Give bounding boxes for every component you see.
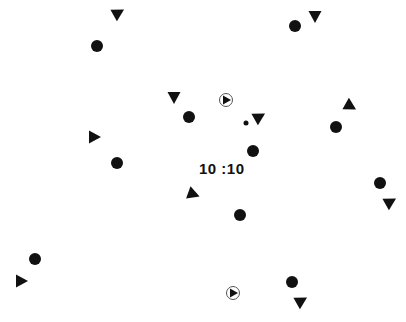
triangle-icon [89,131,101,144]
triangle-icon [251,108,268,125]
dot-icon [374,177,386,189]
triangle-icon [16,275,28,288]
dot-icon [289,20,301,32]
triangle-icon [293,292,310,309]
dot-icon [234,209,246,221]
dot-icon [244,121,249,126]
dot-icon [29,253,41,265]
triangle-icon [110,4,127,21]
stimulus-canvas: 10 :10 [0,0,406,322]
dot-icon [91,40,103,52]
triangle-icon [342,98,359,115]
triangle-icon [186,186,202,202]
circled-play-target-icon[interactable] [220,94,233,107]
dot-icon [286,276,298,288]
dot-icon [111,157,123,169]
dot-icon [247,145,259,157]
circled-play-target-icon[interactable] [227,287,240,300]
dot-icon [330,121,342,133]
triangle-icon [168,92,181,104]
timer-label: 10 :10 [199,160,245,177]
triangle-icon [309,11,322,23]
dot-icon [183,111,195,123]
triangle-icon [382,193,399,210]
